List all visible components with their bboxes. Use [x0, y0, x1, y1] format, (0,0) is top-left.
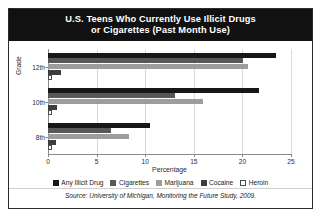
legend-swatch-icon: [156, 180, 162, 186]
legend-label: Heroin: [249, 179, 268, 186]
y-axis-category-labels: 12th10th8th: [9, 49, 45, 154]
bar: [48, 88, 259, 93]
x-tick-label: 20: [239, 158, 246, 165]
y-tick-label: 10th: [32, 98, 45, 105]
legend-label: Any Illicit Drug: [61, 179, 103, 186]
x-axis-title: Percentage: [48, 166, 291, 173]
bar: [48, 99, 203, 104]
y-tick-mark: [45, 102, 48, 103]
source-note: Source: University of Michigan, Monitori…: [9, 190, 312, 208]
bar: [48, 70, 61, 75]
bar: [48, 53, 276, 58]
legend-label: Cocaine: [209, 179, 233, 186]
y-tick-mark: [45, 67, 48, 68]
plot-container: Grade 12th10th8th 0510152025 Percentage: [9, 41, 312, 175]
y-tick-label: 12th: [32, 63, 45, 70]
chart-legend: Any Illicit DrugCigarettesMarijuanaCocai…: [9, 177, 312, 188]
legend-divider: [9, 188, 312, 189]
title-line-2: or Cigarettes (Past Month Use): [65, 25, 256, 37]
legend-item[interactable]: Cocaine: [201, 179, 234, 186]
legend-swatch-icon: [53, 180, 59, 186]
bar: [48, 134, 129, 139]
bar: [48, 123, 150, 128]
legend-swatch-icon: [240, 180, 246, 186]
legend-item[interactable]: Heroin: [240, 179, 268, 186]
legend-swatch-icon: [201, 180, 207, 186]
bar: [48, 110, 52, 115]
x-tick-label: 25: [287, 158, 294, 165]
bar: [48, 75, 52, 80]
legend-label: Cigarettes: [119, 179, 149, 186]
bar: [48, 140, 56, 145]
bar: [48, 93, 175, 98]
x-tick-mark: [194, 154, 195, 157]
source-text: Source: University of Michigan, Monitori…: [65, 192, 256, 199]
x-axis-line: [48, 154, 291, 155]
legend-item[interactable]: Any Illicit Drug: [53, 179, 104, 186]
bar: [48, 128, 111, 133]
legend-item[interactable]: Marijuana: [156, 179, 193, 186]
legend-label: Marijuana: [165, 179, 194, 186]
bar: [48, 105, 57, 110]
x-tick-label: 5: [95, 158, 99, 165]
page-title: U.S. Teens Who Currently Use Illicit Dru…: [59, 14, 262, 37]
x-tick-mark: [242, 154, 243, 157]
legend-swatch-icon: [110, 180, 116, 186]
legend-item[interactable]: Cigarettes: [110, 179, 149, 186]
x-tick-label: 10: [142, 158, 149, 165]
y-tick-mark: [45, 137, 48, 138]
chart-figure: U.S. Teens Who Currently Use Illicit Dru…: [0, 0, 321, 217]
bar: [48, 58, 243, 63]
x-tick-mark: [97, 154, 98, 157]
x-tick-label: 15: [190, 158, 197, 165]
bar: [48, 64, 248, 69]
bars-area: [48, 49, 291, 154]
chart-title-banner: U.S. Teens Who Currently Use Illicit Dru…: [9, 9, 312, 41]
bar: [48, 145, 52, 150]
y-tick-label: 8th: [36, 133, 45, 140]
x-tick-mark: [291, 154, 292, 157]
x-tick-mark: [48, 154, 49, 157]
gridline: [291, 49, 292, 154]
x-tick-mark: [145, 154, 146, 157]
x-tick-label: 0: [46, 158, 50, 165]
title-line-1: U.S. Teens Who Currently Use Illicit Dru…: [65, 14, 256, 26]
